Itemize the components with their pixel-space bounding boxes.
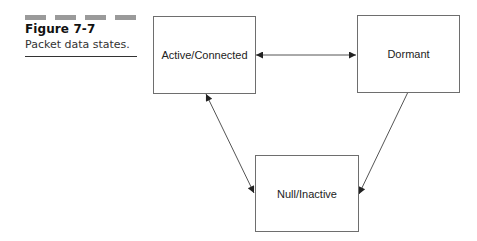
state-null-inactive: Null/Inactive bbox=[255, 155, 359, 232]
state-label: Null/Inactive bbox=[277, 188, 337, 200]
state-dormant: Dormant bbox=[357, 15, 460, 93]
edge-active-null bbox=[206, 94, 254, 193]
state-label: Dormant bbox=[387, 48, 429, 60]
edge-dormant-null bbox=[359, 92, 408, 194]
state-active-connected: Active/Connected bbox=[153, 16, 256, 94]
state-label: Active/Connected bbox=[161, 49, 247, 61]
